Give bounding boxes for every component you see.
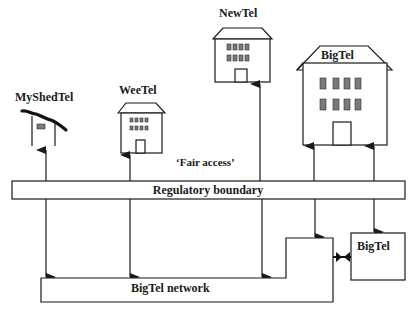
- regulatory-boundary-label: Regulatory boundary: [153, 183, 263, 197]
- fair-access-diagram: MyShedTel WeeTel: [0, 0, 415, 312]
- myshedtel-label: MyShedTel: [15, 90, 74, 104]
- newtel-node: NewTel: [213, 6, 272, 82]
- bigtel-network: BigTel network: [41, 238, 333, 302]
- newtel-label: NewTel: [219, 6, 258, 20]
- weetel-label: WeeTel: [119, 83, 157, 97]
- weetel-node: WeeTel: [118, 83, 165, 153]
- shed-icon: [22, 111, 66, 146]
- bigtel-box-node: BigTel: [351, 233, 405, 280]
- building-icon: [213, 28, 272, 82]
- building-icon: [118, 103, 165, 153]
- interconnect-icon: [333, 252, 351, 262]
- bigtel-box-label: BigTel: [357, 239, 391, 253]
- diagram-svg: MyShedTel WeeTel: [0, 0, 415, 312]
- bigtel-building-label: BigTel: [321, 48, 355, 62]
- fair-access-annotation: ‘Fair access’: [176, 156, 235, 168]
- regulatory-boundary: Regulatory boundary: [12, 181, 405, 199]
- myshedtel-node: MyShedTel: [15, 90, 74, 146]
- bigtel-building-node: BigTel: [297, 46, 392, 145]
- bigtel-network-label: BigTel network: [131, 281, 210, 295]
